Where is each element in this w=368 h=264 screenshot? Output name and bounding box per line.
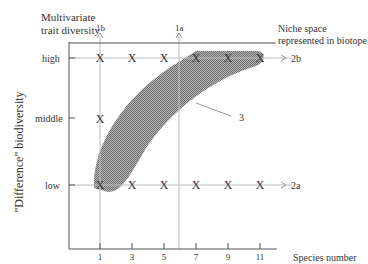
top-right-label-line1: Niche space [278,23,327,34]
top-left-label-line1: Multivariate [41,11,95,23]
marker-middle-1: X [96,112,105,126]
marker-high-3: X [128,51,137,65]
marker-high-5: X [160,51,169,65]
y-level-high: high [42,53,60,64]
x-tick-label-5: 5 [162,252,167,262]
marker-high-11: X [256,51,265,65]
region-label-3: 3 [239,112,244,123]
marker-high-7: X [192,51,201,65]
y-axis-title: "Difference" biodiversity [12,91,26,212]
arrow-label-1a: 1a [175,23,184,33]
marker-low-9: X [224,178,233,192]
arrow-label-2b: 2b [291,53,301,64]
marker-high-1: X [96,51,105,65]
top-right-label-line2: represented in biotope [278,35,367,46]
marker-low-1: X [96,178,105,192]
y-level-low: low [45,180,61,191]
marker-low-11: X [256,178,265,192]
x-tick-labels: 1 3 5 7 9 11 [98,252,265,262]
biodiversity-diagram: Multivariate trait diversity Niche space… [0,0,368,264]
arrow-label-1b: 1b [96,23,106,33]
x-ticks [100,243,260,249]
arrow-label-2a: 2a [291,180,301,191]
region-3-leader [196,103,231,116]
marker-low-5: X [160,178,169,192]
x-tick-label-11: 11 [256,252,265,262]
marker-low-7: X [192,178,201,192]
marker-low-3: X [128,178,137,192]
x-axis-end-label: Species number [293,252,357,263]
x-tick-label-7: 7 [194,252,199,262]
x-tick-label-9: 9 [226,252,231,262]
marker-high-9: X [224,51,233,65]
x-tick-label-3: 3 [130,252,135,262]
top-left-label-line2: trait diversity [41,24,100,36]
y-level-middle: middle [35,113,63,124]
x-tick-label-1: 1 [98,252,103,262]
